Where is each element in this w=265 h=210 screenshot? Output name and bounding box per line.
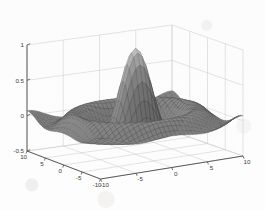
y-tick: [172, 168, 173, 171]
y-tick-label: 10: [244, 158, 251, 165]
y-tick-label: -5: [137, 175, 143, 182]
surface-plot: 10.50-0.51050-5-10-10-50510: [0, 0, 265, 210]
y-tick: [207, 162, 208, 165]
z-tick-label: 0.5: [15, 77, 24, 84]
z-tick-label: 0: [21, 112, 25, 119]
figure-container: 10.50-0.51050-5-10-10-50510: [0, 0, 265, 210]
x-tick-label: -5: [76, 174, 82, 181]
z-tick-label: 1: [21, 41, 25, 48]
x-tick: [44, 158, 45, 161]
y-tick-label: -10: [100, 181, 110, 188]
x-tick-label: 5: [40, 160, 44, 167]
x-tick-label: 10: [20, 153, 27, 160]
x-tick: [63, 165, 64, 168]
x-tick-label: 0: [59, 167, 63, 174]
mesh-surface: [27, 48, 243, 144]
y-tick-label: 0: [174, 170, 178, 177]
y-tick-label: 5: [210, 164, 214, 171]
